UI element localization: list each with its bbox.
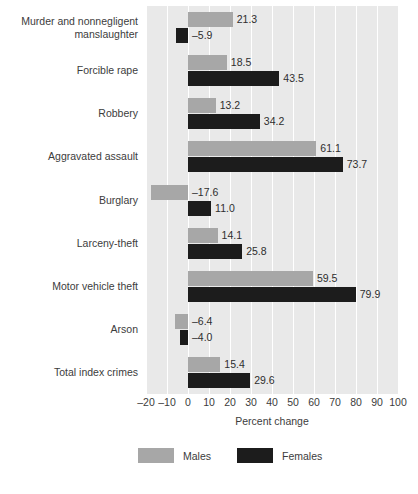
- chart-legend: MalesFemales: [138, 448, 322, 463]
- legend-label: Males: [183, 450, 211, 462]
- x-tick-label: 20: [224, 396, 236, 408]
- gridline: [356, 6, 357, 394]
- gridline: [293, 6, 294, 394]
- bar-chart: Murder and nonnegligent manslaughterForc…: [0, 0, 418, 494]
- bar-value-label: 15.4: [224, 357, 244, 372]
- bar-males: [188, 228, 218, 243]
- bar-females: [176, 28, 188, 43]
- bar-females: [188, 71, 279, 86]
- x-tick-label: –10: [158, 396, 176, 408]
- bar-value-label: 13.2: [220, 98, 240, 113]
- bar-value-label: 59.5: [317, 271, 337, 286]
- gridline: [335, 6, 336, 394]
- bar-males: [188, 55, 227, 70]
- bar-males: [175, 314, 188, 329]
- bar-value-label: 11.0: [215, 201, 235, 216]
- gridline: [167, 6, 168, 394]
- legend-swatch-icon: [138, 448, 174, 463]
- x-tick-label: 70: [329, 396, 341, 408]
- gridline: [272, 6, 273, 394]
- x-tick-label: 40: [266, 396, 278, 408]
- category-label: Larceny-theft: [77, 237, 138, 250]
- bar-value-label: 18.5: [231, 55, 251, 70]
- bar-females: [180, 330, 188, 345]
- category-label: Forcible rape: [77, 64, 138, 77]
- gridline: [146, 6, 147, 394]
- bar-males: [188, 357, 220, 372]
- x-tick-label: 80: [350, 396, 362, 408]
- category-label: Arson: [111, 323, 138, 336]
- x-tick-label: 50: [287, 396, 299, 408]
- gridline: [377, 6, 378, 394]
- gridline: [398, 6, 399, 394]
- bar-females: [188, 287, 356, 302]
- x-tick-label: –20: [137, 396, 155, 408]
- bar-value-label: –4.0: [192, 330, 212, 345]
- bar-males: [188, 141, 316, 156]
- bar-value-label: 61.1: [320, 141, 340, 156]
- bar-females: [188, 114, 260, 129]
- bar-males: [188, 98, 216, 113]
- bar-males: [188, 271, 313, 286]
- bar-value-label: 73.7: [347, 157, 367, 172]
- x-tick-label: 10: [203, 396, 215, 408]
- bar-males: [188, 12, 233, 27]
- bar-value-label: 29.6: [254, 373, 274, 388]
- x-tick-label: 60: [308, 396, 320, 408]
- bar-value-label: –5.9: [192, 28, 212, 43]
- bar-value-label: –17.6: [192, 185, 218, 200]
- bar-value-label: 25.8: [246, 244, 266, 259]
- bar-females: [188, 244, 242, 259]
- bar-value-label: 14.1: [222, 228, 242, 243]
- x-tick-label: 30: [245, 396, 257, 408]
- x-axis-title: Percent change: [146, 415, 398, 427]
- bar-females: [188, 373, 250, 388]
- legend-swatch-icon: [237, 448, 273, 463]
- bar-value-label: 34.2: [264, 114, 284, 129]
- bar-value-label: 79.9: [360, 287, 380, 302]
- bar-females: [188, 157, 343, 172]
- category-label: Total index crimes: [54, 366, 138, 379]
- category-label: Motor vehicle theft: [52, 280, 138, 293]
- category-axis-labels: Murder and nonnegligent manslaughterForc…: [0, 0, 142, 394]
- category-label: Robbery: [98, 107, 138, 120]
- gridline: [314, 6, 315, 394]
- x-tick-label: 100: [389, 396, 407, 408]
- category-label: Murder and nonnegligent manslaughter: [21, 15, 138, 41]
- category-label: Aggravated assault: [48, 150, 138, 163]
- legend-label: Females: [282, 450, 322, 462]
- bar-value-label: –6.4: [192, 314, 212, 329]
- legend-item: Males: [138, 448, 211, 463]
- legend-item: Females: [237, 448, 322, 463]
- plot-area: 21.3–5.918.543.513.234.261.173.7–17.611.…: [146, 6, 398, 394]
- bar-females: [188, 201, 211, 216]
- category-label: Burglary: [99, 194, 138, 207]
- x-tick-label: 0: [185, 396, 191, 408]
- x-axis-tick-labels: –20–100102030405060708090100: [146, 396, 398, 412]
- bar-value-label: 21.3: [237, 12, 257, 27]
- x-tick-label: 90: [371, 396, 383, 408]
- bar-males: [151, 185, 188, 200]
- bar-value-label: 43.5: [283, 71, 303, 86]
